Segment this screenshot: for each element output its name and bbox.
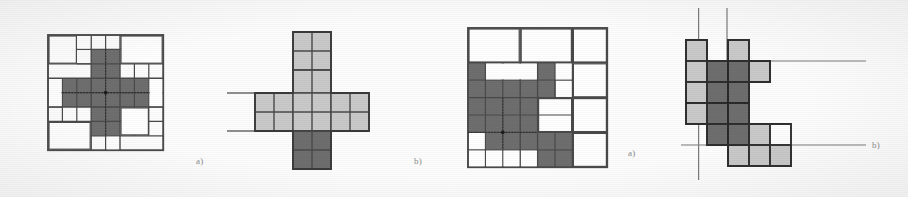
panel-1-label: a)	[196, 156, 203, 166]
panel-4-label: b)	[872, 140, 880, 150]
panel-2-rules	[227, 93, 255, 131]
panel-1-centre-node	[104, 91, 108, 95]
figure-panel-4: b)	[681, 0, 908, 197]
figure-panel-3: a)	[454, 0, 681, 197]
figure-panel-2: b)	[227, 0, 454, 197]
figure-panel-1: a)	[0, 0, 227, 197]
panel-1-diagram	[0, 0, 227, 197]
panel-2-label: b)	[414, 156, 422, 166]
panel-3-label: a)	[628, 148, 635, 158]
panel-3-diagram	[454, 0, 681, 197]
panel-4-diagram	[681, 0, 908, 197]
figure-sheet: a)	[0, 0, 908, 197]
panel-2-diagram	[227, 0, 454, 197]
panel-3-centre-node	[501, 131, 505, 135]
